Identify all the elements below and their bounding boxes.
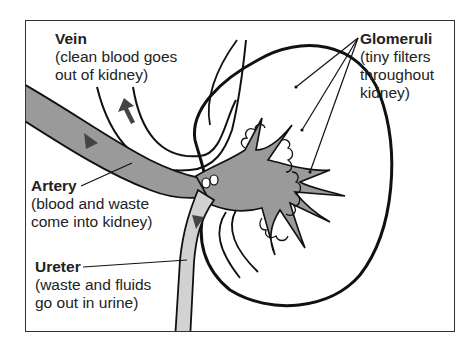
artery-desc-line2: come into kidney)	[31, 213, 152, 231]
vein-flow-arrow	[118, 98, 135, 124]
glomeruli-desc-line2: throughout	[360, 66, 434, 84]
glomeruli-desc-line1: (tiny filters	[360, 48, 434, 66]
vein-title: Vein	[55, 30, 177, 48]
artery-desc-line1: (blood and waste	[31, 195, 152, 213]
vein-label: Vein (clean blood goes out of kidney)	[55, 30, 177, 84]
artery-title: Artery	[31, 177, 152, 195]
vein-desc-line2: out of kidney)	[55, 66, 177, 84]
artery-label: Artery (blood and waste come into kidney…	[31, 177, 152, 231]
ureter-desc-line1: (waste and fluids	[35, 276, 151, 294]
ureter-label: Ureter (waste and fluids go out in urine…	[35, 258, 151, 312]
glomeruli-desc-line3: kidney)	[360, 84, 434, 102]
ureter-desc-line2: go out in urine)	[35, 294, 151, 312]
vein-desc-line1: (clean blood goes	[55, 48, 177, 66]
glomeruli-title: Glomeruli	[360, 30, 434, 48]
glomeruli-label: Glomeruli (tiny filters throughout kidne…	[360, 30, 434, 102]
ureter-title: Ureter	[35, 258, 151, 276]
